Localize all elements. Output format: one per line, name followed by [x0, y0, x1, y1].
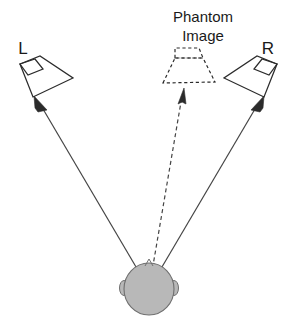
- right-speaker-label: R: [262, 39, 274, 58]
- phantom-image-label-line1: Phantom: [173, 8, 233, 25]
- left-speaker-label: L: [18, 39, 27, 58]
- diagram-canvas: Phantom Image L R: [0, 0, 297, 321]
- phantom-image-label-line2: Image: [182, 27, 224, 44]
- stereo-phantom-image-diagram: Phantom Image L R: [0, 0, 297, 321]
- listener-head-outline: [124, 263, 174, 315]
